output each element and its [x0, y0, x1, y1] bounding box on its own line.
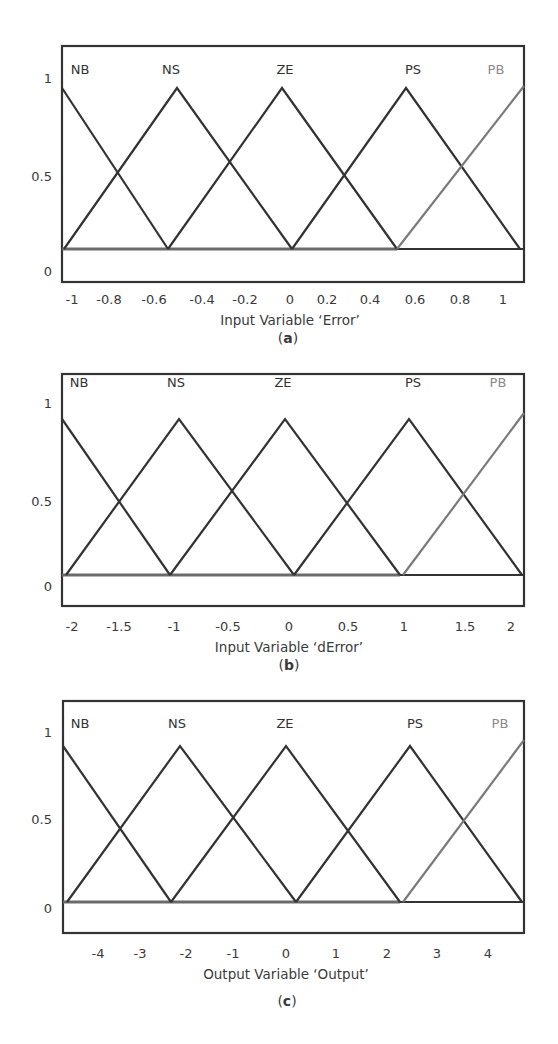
mf-label-pb: PB [490, 375, 507, 390]
plot-area-a [0, 0, 558, 327]
mf-line-ps [292, 88, 520, 249]
mf-label-ns: NS [167, 375, 185, 390]
x-tick-label: 1.5 [455, 619, 476, 634]
mf-line-ze [170, 419, 400, 575]
plot-frame [62, 374, 524, 606]
x-tick-label: -1.5 [106, 619, 131, 634]
y-tick-label: 0 [44, 264, 52, 279]
mf-label-ze: ZE [276, 716, 293, 731]
y-tick-label: 0.5 [31, 169, 52, 184]
x-tick-label: 4 [484, 946, 492, 961]
x-tick-label: 0.6 [405, 292, 426, 307]
x-tick-label: 0 [285, 619, 293, 634]
x-tick-label: -0.6 [141, 292, 166, 307]
mf-line-ns [67, 746, 296, 902]
plot-area-c [0, 654, 558, 981]
chart-panel-b: NB NS ZE PS PB 1 0.5 0 -2 -1.5 -1 -0.5 0… [0, 327, 558, 654]
x-tick-label: 0.5 [338, 619, 359, 634]
x-tick-label: -0.5 [215, 619, 240, 634]
y-tick-label: 1 [44, 725, 52, 740]
mf-line-nb [62, 88, 168, 249]
x-tick-label: -0.8 [96, 292, 121, 307]
mf-label-ps: PS [405, 375, 421, 390]
caption-letter: c [283, 993, 291, 1009]
chart-panel-c: NB NS ZE PS PB 1 0.5 0 -4 -3 -2 -1 0 1 2… [0, 654, 558, 981]
figure-caption-c: (c) [277, 993, 296, 1009]
mf-label-ze: ZE [274, 375, 291, 390]
mf-label-pb: PB [488, 62, 505, 77]
mf-label-ps: PS [405, 62, 421, 77]
x-axis-title: Output Variable ‘Output’ [203, 966, 369, 982]
mf-line-nb [62, 419, 170, 575]
mf-line-ze [168, 88, 397, 249]
mf-line-ps [294, 419, 522, 575]
mf-label-ps: PS [407, 716, 423, 731]
x-tick-label: -1 [66, 292, 79, 307]
x-tick-label: -4 [92, 946, 105, 961]
x-tick-label: 1 [332, 946, 340, 961]
x-tick-label: 0 [282, 946, 290, 961]
x-tick-label: 1 [499, 292, 507, 307]
mf-line-pb [397, 86, 524, 249]
x-tick-label: 0.2 [317, 292, 338, 307]
y-tick-label: 1 [44, 71, 52, 86]
x-tick-label: -1 [227, 946, 240, 961]
x-tick-label: -2 [66, 619, 79, 634]
mf-label-nb: NB [70, 375, 89, 390]
x-tick-label: -3 [134, 946, 147, 961]
x-tick-label: 2 [383, 946, 391, 961]
x-tick-label: 3 [433, 946, 441, 961]
mf-line-ns [64, 88, 292, 249]
x-tick-label: 0 [286, 292, 294, 307]
x-tick-label: 0.4 [360, 292, 381, 307]
x-tick-label: -1 [168, 619, 181, 634]
mf-label-ns: NS [162, 62, 180, 77]
chart-panel-a: NB NS ZE PS PB 1 0.5 0 -1 -0.8 -0.6 -0.4… [0, 0, 558, 327]
mf-label-ns: NS [168, 716, 186, 731]
y-tick-label: 0.5 [31, 494, 52, 509]
mf-line-ze [171, 746, 400, 902]
mf-label-nb: NB [71, 716, 90, 731]
y-tick-label: 1 [44, 396, 52, 411]
x-tick-label: -0.2 [232, 292, 257, 307]
mf-label-pb: PB [492, 716, 509, 731]
mf-line-ps [296, 746, 522, 902]
y-tick-label: 0.5 [31, 812, 52, 827]
y-tick-label: 0 [44, 901, 52, 916]
mf-line-ns [66, 419, 294, 575]
x-axis-title: Input Variable ‘dError’ [215, 639, 363, 655]
x-tick-label: -0.4 [189, 292, 214, 307]
mf-label-nb: NB [71, 62, 90, 77]
mf-label-ze: ZE [276, 62, 293, 77]
x-tick-label: 0.8 [450, 292, 471, 307]
x-tick-label: -2 [180, 946, 193, 961]
y-tick-label: 0 [44, 579, 52, 594]
x-tick-label: 2 [507, 619, 515, 634]
mf-line-nb [63, 746, 171, 902]
x-axis-title: Input Variable ‘Error’ [220, 312, 360, 328]
x-tick-label: 1 [400, 619, 408, 634]
caption-paren: ) [291, 993, 296, 1009]
